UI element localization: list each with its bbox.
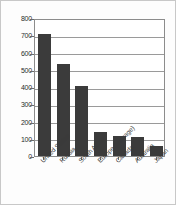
y-axis-tick-label: 100 [4, 136, 32, 143]
y-axis-tick-label: 300 [4, 101, 32, 108]
y-axis-tick-label: 600 [4, 50, 32, 57]
y-axis-tick-label: 800 [4, 15, 32, 22]
y-axis-tick-label: 0 [4, 153, 32, 160]
bar [75, 86, 88, 156]
y-axis-tick-label: 700 [4, 32, 32, 39]
y-axis-tick-label: 400 [4, 84, 32, 91]
y-axis-tick-label: 500 [4, 67, 32, 74]
y-axis-tick-label: 200 [4, 119, 32, 126]
bar [38, 34, 51, 156]
bar-chart-figure: 0100200300400500600700800 United StatesR… [0, 0, 176, 205]
y-axis: 0100200300400500600700800 [1, 1, 32, 157]
x-axis: United StatesRussiaSouth AfricaEurope (a… [34, 157, 165, 205]
